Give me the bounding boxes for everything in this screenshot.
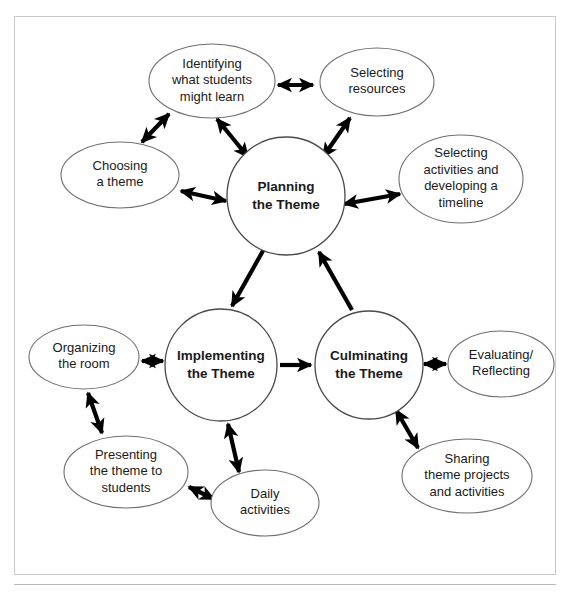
clipped-header-text xyxy=(0,0,573,14)
node-label: Choosinga theme xyxy=(93,158,148,190)
node-planning[interactable]: Planningthe Theme xyxy=(227,137,345,255)
thematic-unit-cycle-diagram: Identifyingwhat studentsmight learnSelec… xyxy=(14,16,556,575)
figure-page: Identifyingwhat studentsmight learnSelec… xyxy=(0,0,573,593)
node-selecting-resources[interactable]: Selectingresources xyxy=(320,48,434,116)
node-label: Identifyingwhat studentsmight learn xyxy=(171,56,253,104)
node-layer: Identifyingwhat studentsmight learnSelec… xyxy=(29,44,554,536)
connector-arrow xyxy=(142,114,169,142)
node-presenting-theme[interactable]: Presentingthe theme tostudents xyxy=(64,436,188,508)
node-identifying[interactable]: Identifyingwhat studentsmight learn xyxy=(149,44,275,118)
connector-arrow xyxy=(396,410,418,448)
connector-arrow xyxy=(228,424,239,472)
node-sharing-theme[interactable]: Sharingtheme projectsand activities xyxy=(402,439,532,513)
node-label: Selectingresources xyxy=(348,65,406,97)
node-evaluating-reflecting[interactable]: Evaluating/Reflecting xyxy=(448,331,554,397)
node-organizing-room[interactable]: Organizingthe room xyxy=(29,325,139,389)
connector-arrow xyxy=(232,249,264,306)
connector-arrow xyxy=(189,487,214,499)
node-label: Evaluating/Reflecting xyxy=(469,347,534,379)
connector-arrow xyxy=(88,393,102,433)
connector-arrow xyxy=(319,252,352,310)
node-implementing[interactable]: Implementingthe Theme xyxy=(165,309,277,421)
node-choosing-theme[interactable]: Choosinga theme xyxy=(61,142,179,208)
node-label: Organizingthe room xyxy=(53,340,116,372)
connector-arrow xyxy=(344,194,400,204)
node-daily-activities[interactable]: Dailyactivities xyxy=(211,470,319,536)
connector-arrow xyxy=(181,191,226,201)
footer-divider-rule xyxy=(14,584,556,585)
node-culminating[interactable]: Culminatingthe Theme xyxy=(315,311,423,419)
connector-arrow xyxy=(323,118,350,157)
node-selecting-activities[interactable]: Selectingactivities anddeveloping atimel… xyxy=(399,135,523,223)
connector-arrow xyxy=(217,119,248,157)
